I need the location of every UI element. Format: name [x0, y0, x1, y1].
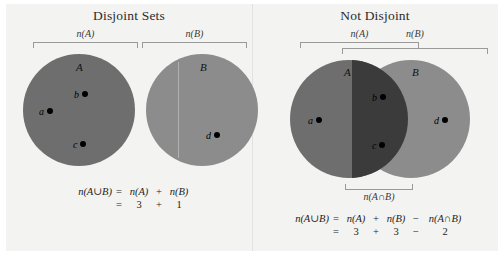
eq4-term2: 3	[383, 226, 409, 237]
element-dot-icon	[442, 117, 448, 123]
element-dot-icon	[379, 142, 385, 148]
bracket-label-n-a-intersect-b: n(A∩B)	[345, 191, 413, 202]
eq3-term2: n(B)	[383, 213, 409, 224]
element-d-right: d	[434, 115, 448, 126]
bracket-n-a-left	[33, 42, 138, 48]
scan-artifact-line	[178, 62, 179, 158]
element-dot-icon	[80, 141, 86, 147]
element-b-left: b	[74, 89, 88, 100]
eq1-op1: +	[152, 186, 166, 197]
eq2-term1: 3	[126, 199, 152, 210]
panel-title-not-disjoint: Not Disjoint	[252, 8, 498, 24]
element-b-right: b	[372, 92, 386, 103]
element-dot-icon	[214, 132, 220, 138]
element-a-right: a	[308, 115, 322, 126]
eq1-term1: n(A)	[126, 186, 152, 197]
equation-not-disjoint: n(A∪B) = n(A) + n(B) − n(A∩B)	[252, 212, 498, 224]
eq2-term2: 1	[166, 199, 192, 210]
bracket-n-a-intersect-b	[345, 184, 413, 190]
bracket-label-n-a-left: n(A)	[33, 28, 138, 39]
element-label-b: b	[74, 89, 79, 100]
element-label-c: c	[372, 140, 376, 151]
eq3-equals: =	[329, 213, 343, 224]
eq1-lhs: n(A∪B)	[66, 185, 112, 197]
set-label-b-right: B	[412, 66, 419, 78]
element-dot-icon	[82, 91, 88, 97]
element-label-a: a	[308, 115, 313, 126]
set-label-b-left: B	[200, 61, 207, 73]
eq3-lhs: n(A∪B)	[283, 212, 329, 224]
element-dot-icon	[47, 108, 53, 114]
panel-title-disjoint: Disjoint Sets	[6, 8, 252, 24]
eq3-op1: +	[369, 213, 383, 224]
equation-not-disjoint-values: = 3 + 3 − 2	[252, 226, 498, 237]
element-d-left: d	[206, 130, 220, 141]
equation-disjoint-values: = 3 + 1	[6, 199, 252, 210]
element-label-d: d	[206, 130, 211, 141]
eq3-term3: n(A∩B)	[423, 213, 467, 224]
figure-frame-right	[498, 0, 503, 257]
set-label-a-left: A	[76, 61, 83, 73]
element-label-a: a	[39, 106, 44, 117]
eq1-term2: n(B)	[166, 186, 192, 197]
bracket-label-n-b-right: n(B)	[372, 28, 458, 39]
eq4-equals: =	[329, 226, 343, 237]
eq3-op2: −	[409, 213, 423, 224]
bracket-n-b-left	[142, 42, 247, 48]
element-dot-icon	[380, 94, 386, 100]
eq1-equals: =	[112, 186, 126, 197]
element-a-left: a	[39, 106, 53, 117]
element-c-left: c	[73, 139, 86, 150]
bracket-n-b-right	[342, 48, 488, 54]
element-c-right: c	[372, 140, 385, 151]
eq4-term1: 3	[343, 226, 369, 237]
panel-not-disjoint: Not Disjoint n(A) n(B) A B a d b c	[252, 4, 498, 251]
eq2-op1: +	[152, 199, 166, 210]
bracket-label-n-b-left: n(B)	[142, 28, 247, 39]
eq3-term1: n(A)	[343, 213, 369, 224]
eq4-op2: −	[409, 226, 423, 237]
set-intersection-clip	[352, 60, 408, 178]
element-label-c: c	[73, 139, 77, 150]
set-intersection-a-b	[352, 60, 408, 178]
venn-diagram-figure: Disjoint Sets n(A) n(B) A B a b c d	[0, 0, 503, 257]
equation-disjoint: n(A∪B) = n(A) + n(B)	[6, 185, 252, 197]
eq4-op1: +	[369, 226, 383, 237]
panel-disjoint: Disjoint Sets n(A) n(B) A B a b c d	[6, 4, 252, 251]
set-label-a-right: A	[344, 66, 351, 78]
element-dot-icon	[316, 117, 322, 123]
figure-frame-bottom	[0, 251, 503, 257]
eq2-equals: =	[112, 199, 126, 210]
eq4-term3: 2	[423, 226, 467, 237]
element-label-b: b	[372, 92, 377, 103]
element-label-d: d	[434, 115, 439, 126]
